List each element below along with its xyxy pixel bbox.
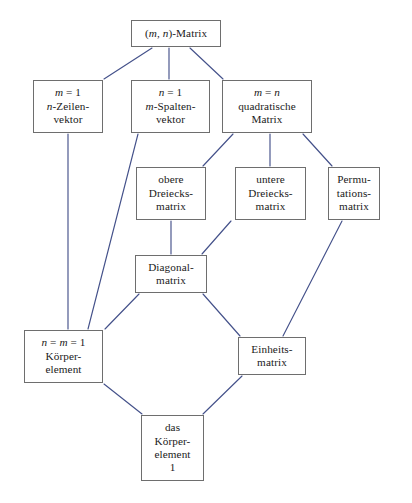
node-text-line: Körper- xyxy=(155,435,191,448)
node-text-line: matrix xyxy=(156,274,186,287)
spaltenvektor-node: n = 1m-Spalten-vektor xyxy=(131,80,210,133)
node-text-line: element xyxy=(154,448,190,461)
node-text-line: n = m = 1 xyxy=(42,336,86,349)
node-text-line: Dreiecks- xyxy=(149,187,193,200)
node-text-line: matrix xyxy=(339,200,369,213)
edge-einheits-to-das xyxy=(203,376,242,414)
edge-diagonal-to-einheits xyxy=(203,294,240,336)
node-text-line: Körper- xyxy=(46,350,82,363)
permutationsmatrix-node: Permu-tations-matrix xyxy=(328,167,380,220)
node-text-line: untere xyxy=(256,173,285,186)
node-text-line: Einheits- xyxy=(251,343,292,356)
edge-koerperelement-to-das xyxy=(104,384,142,414)
node-text-line: tations- xyxy=(337,187,371,200)
untere-dreiecksmatrix-node: untereDreiecks-matrix xyxy=(235,167,306,220)
node-text-line: (m, n)-Matrix xyxy=(145,27,207,40)
node-text-line: Matrix xyxy=(251,113,282,126)
node-text-line: obere xyxy=(158,173,183,186)
node-text-line: Diagonal- xyxy=(148,261,194,274)
koerperelement-node: n = m = 1Körper-element xyxy=(24,330,103,383)
zeilenvektor-node: m = 1n-Zeilen-vektor xyxy=(33,80,103,133)
node-text-line: matrix xyxy=(156,200,186,213)
node-text-line: matrix xyxy=(257,356,287,369)
diagonalmatrix-node: Diagonal-matrix xyxy=(135,255,207,293)
edge-diagonal-to-koerperelement xyxy=(105,294,139,329)
node-text-line: m-Spalten- xyxy=(145,100,195,113)
node-text-line: Dreiecks- xyxy=(248,187,292,200)
node-text-line: Permu- xyxy=(337,173,371,186)
node-text-line: das xyxy=(165,421,180,434)
node-text-line: element xyxy=(45,363,81,376)
das-koerperelement-1-node: dasKörper-element1 xyxy=(141,415,204,481)
edge-permutations-to-einheits xyxy=(283,221,342,336)
node-text-line: quadratische xyxy=(238,100,296,113)
mn-matrix-node: (m, n)-Matrix xyxy=(131,20,221,47)
einheitsmatrix-node: Einheits-matrix xyxy=(238,337,306,375)
node-text-line: n = 1 xyxy=(159,86,183,99)
node-text-line: n-Zeilen- xyxy=(47,100,90,113)
edge-layer xyxy=(0,0,412,503)
quadratische-matrix-node: m = nquadratischeMatrix xyxy=(222,80,312,133)
node-text-line: m = 1 xyxy=(55,86,81,99)
matrix-hierarchy-diagram: (m, n)-Matrixm = 1n-Zeilen-vektorn = 1m-… xyxy=(0,0,412,503)
edge-mnmatrix-to-quadratische xyxy=(190,48,223,79)
node-text-line: vektor xyxy=(53,113,82,126)
node-text-line: m = n xyxy=(254,86,280,99)
edge-untere-to-diagonal xyxy=(202,221,231,254)
node-text-line: matrix xyxy=(256,200,286,213)
edge-mnmatrix-to-zeilenvektor xyxy=(104,48,152,79)
node-text-line: vektor xyxy=(156,113,185,126)
edge-quadratische-to-obere xyxy=(203,134,233,166)
edge-spaltenvektor-to-koerperelement xyxy=(88,134,138,329)
obere-dreiecksmatrix-node: obereDreiecks-matrix xyxy=(136,167,206,220)
node-text-line: 1 xyxy=(170,461,176,474)
edge-quadratische-to-permutations xyxy=(303,134,332,166)
